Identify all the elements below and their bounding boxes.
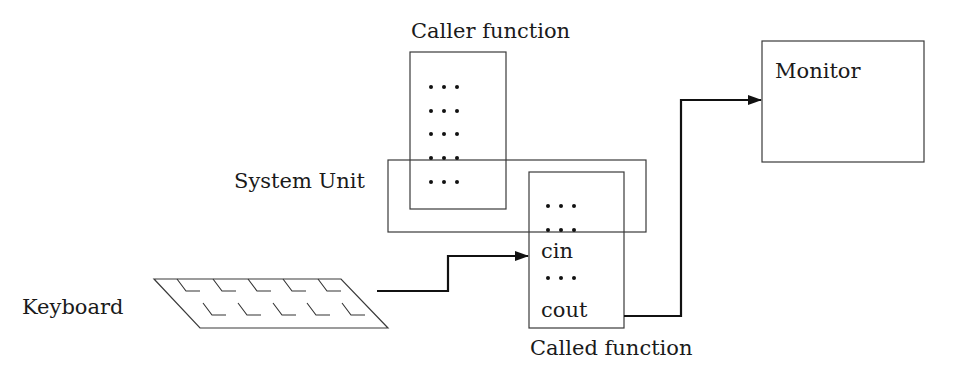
called-function-label: Called function — [530, 336, 692, 360]
cout-label: cout — [541, 298, 588, 322]
keyboard-outline — [154, 279, 388, 328]
keyboard-to-cin-arrow — [377, 256, 528, 291]
ellipsis-icon — [546, 276, 576, 280]
ellipsis-icon — [429, 85, 459, 89]
ellipsis-icon — [429, 156, 459, 160]
system-unit-block — [388, 160, 646, 232]
keyboard-icon — [154, 279, 388, 328]
cin-label: cin — [541, 239, 573, 263]
ellipsis-icon — [429, 132, 459, 136]
caller-function-label: Caller function — [411, 19, 570, 43]
keyboard-label: Keyboard — [22, 295, 124, 319]
monitor-block: Monitor — [762, 41, 924, 162]
system-unit-label: System Unit — [234, 169, 365, 193]
diagram-canvas: System Unit Caller function — [0, 0, 968, 371]
ellipsis-icon — [429, 109, 459, 113]
monitor-label: Monitor — [775, 59, 861, 83]
